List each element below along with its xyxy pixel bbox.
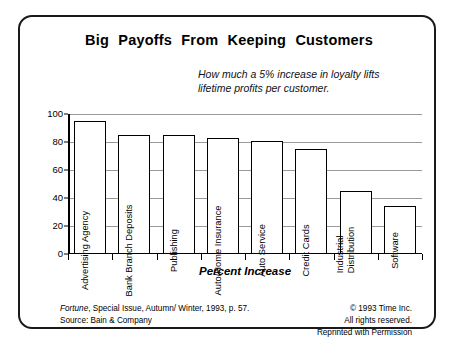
copyright-line-2: All rights reserved. — [317, 315, 412, 327]
x-tick-mark — [378, 254, 379, 260]
bar[interactable]: Bank Branch Deposits — [118, 135, 150, 254]
x-tick-mark — [245, 254, 246, 260]
x-axis-ticks — [68, 254, 422, 260]
copyright-line-3: Reprinted with Permission — [317, 327, 412, 339]
bar[interactable]: Credit Cards — [295, 149, 327, 254]
source-line-2: Source: Bain & Company — [60, 315, 249, 327]
bar-category-label-line: Bank Branch Deposits — [124, 204, 135, 296]
source-detail: , Special Issue, Autumn/ Winter, 1993, p… — [88, 304, 249, 313]
chart-figure-card: Big Payoffs From Keeping Customers How m… — [18, 15, 436, 329]
x-tick-mark — [422, 254, 423, 260]
x-tick-mark — [201, 254, 202, 260]
plot-area: Advertising AgencyBank Branch DepositsPu… — [68, 114, 422, 254]
x-tick-mark — [68, 254, 69, 260]
bar-slot: Auto/Home Insurance — [201, 114, 245, 254]
bar[interactable]: Auto/Home Insurance — [207, 138, 239, 254]
y-axis-line — [68, 114, 70, 254]
bar-category-label-line: Advertising Agency — [80, 210, 91, 289]
y-tick-label: 60 — [52, 165, 63, 175]
bar-category-label: Software — [389, 232, 400, 269]
x-tick-mark — [334, 254, 335, 260]
bar-slot: Bank Branch Deposits — [112, 114, 156, 254]
bar-category-label-line: Software — [389, 232, 400, 269]
bar[interactable]: Publishing — [163, 135, 195, 254]
source-note: Fortune, Special Issue, Autumn/ Winter, … — [60, 303, 249, 327]
y-tick-label: 0 — [58, 249, 63, 259]
bar-category-label: Bank Branch Deposits — [124, 204, 135, 296]
y-tick-label: 80 — [52, 137, 63, 147]
bar-category-label: Auto/Home Insurance — [212, 205, 223, 295]
x-tick-mark — [289, 254, 290, 260]
x-tick-mark — [157, 254, 158, 260]
bar-slot: IndustrialDistribution — [334, 114, 378, 254]
y-tick-label: 40 — [52, 193, 63, 203]
y-tick-label: 20 — [52, 221, 63, 231]
page-title: Big Payoffs From Keeping Customers — [20, 32, 438, 48]
x-tick-mark — [112, 254, 113, 260]
source-publication: Fortune — [60, 304, 88, 313]
y-axis: 100806040200 — [42, 114, 68, 254]
bar-slot: Credit Cards — [289, 114, 333, 254]
chart-subtitle-line-2: lifetime profits per customer. — [198, 81, 423, 95]
bar-series: Advertising AgencyBank Branch DepositsPu… — [68, 114, 422, 254]
x-axis-title: Percent Increase — [68, 265, 422, 277]
source-line-1: Fortune, Special Issue, Autumn/ Winter, … — [60, 303, 249, 315]
bar[interactable]: Auto Service — [251, 141, 283, 254]
bar-slot: Software — [378, 114, 422, 254]
bar-category-label: Advertising Agency — [80, 210, 91, 289]
bar[interactable]: Software — [384, 206, 416, 254]
bar-slot: Auto Service — [245, 114, 289, 254]
bar[interactable]: Advertising Agency — [74, 121, 106, 254]
bar[interactable]: IndustrialDistribution — [340, 191, 372, 254]
chart-subtitle: How much a 5% increase in loyalty lifts … — [198, 67, 423, 95]
copyright-note: © 1993 Time Inc. All rights reserved. Re… — [317, 303, 412, 339]
chart-subtitle-line-1: How much a 5% increase in loyalty lifts — [198, 67, 423, 81]
bar-category-label-line: Auto/Home Insurance — [212, 205, 223, 295]
bar-slot: Advertising Agency — [68, 114, 112, 254]
copyright-line-1: © 1993 Time Inc. — [317, 303, 412, 315]
bar-slot: Publishing — [157, 114, 201, 254]
y-tick-label: 100 — [47, 109, 63, 119]
chart-plot-wrapper: 100806040200 Advertising AgencyBank Bran… — [42, 114, 422, 269]
